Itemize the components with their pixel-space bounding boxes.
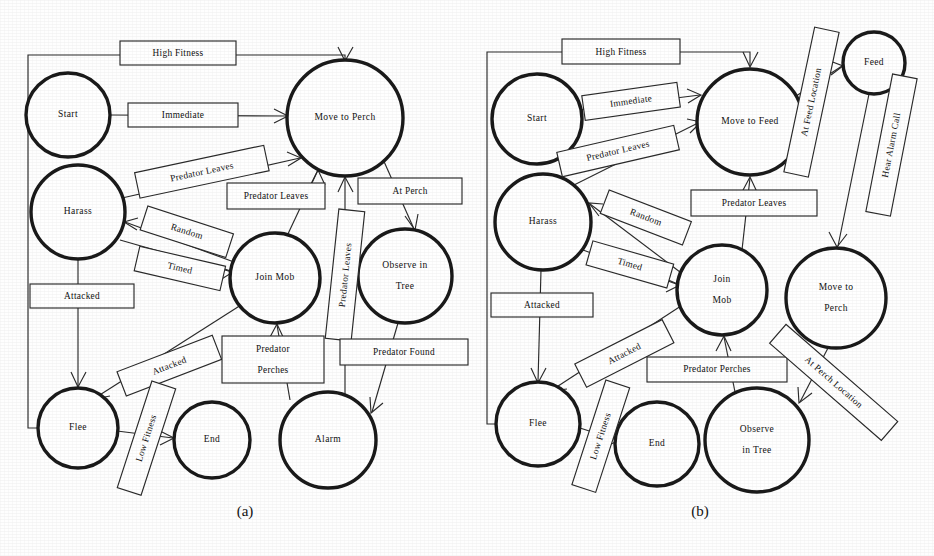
node-b-move-to-perch-label-line1: Move to xyxy=(819,282,854,292)
node-a-flee[interactable]: Flee xyxy=(38,388,118,468)
svg-text:Predator Perches: Predator Perches xyxy=(683,364,751,374)
svg-text:At Perch Location: At Perch Location xyxy=(803,354,865,410)
node-a-move-to-perch-label: Move to Perch xyxy=(314,112,375,122)
panel-a-caption: (a) xyxy=(237,503,254,520)
label-a-predator-perches[interactable]: Predator Perches xyxy=(222,336,324,383)
node-b-join-mob[interactable]: Join Mob xyxy=(677,245,767,335)
figure-canvas: Start Harass Move to Perch Join Mob Obse… xyxy=(0,0,934,556)
svg-text:Predator Found: Predator Found xyxy=(373,347,435,357)
label-a-low-fitness[interactable]: Low Fitness xyxy=(117,381,175,495)
svg-text:Attacked: Attacked xyxy=(64,291,100,301)
svg-text:At Perch: At Perch xyxy=(392,186,427,196)
svg-text:Predator Leaves: Predator Leaves xyxy=(722,198,787,208)
edge-b-attacked-1 xyxy=(538,270,541,382)
label-b-predator-leaves-2[interactable]: Predator Leaves xyxy=(691,190,817,216)
node-b-move-to-perch-label-line2: Perch xyxy=(824,303,848,313)
label-b-timed[interactable]: Timed xyxy=(586,241,674,288)
node-a-start-label: Start xyxy=(58,109,78,119)
node-b-join-mob-label-line2: Mob xyxy=(712,295,731,305)
node-a-move-to-perch[interactable]: Move to Perch xyxy=(287,60,403,176)
panel-b: Start Harass Move to Feed Feed Join xyxy=(487,27,917,520)
label-a-predator-perches-line1: Predator xyxy=(256,344,290,354)
label-a-immediate[interactable]: Immediate xyxy=(128,103,238,127)
label-a-predator-found[interactable]: Predator Found xyxy=(340,339,468,365)
node-a-harass[interactable]: Harass xyxy=(31,165,125,259)
panel-b-caption: (b) xyxy=(691,503,709,520)
label-b-immediate[interactable]: Immediate xyxy=(582,82,681,120)
label-b-high-fitness[interactable]: High Fitness xyxy=(562,39,680,64)
node-b-observe-in-tree-label-line1: Observe xyxy=(740,424,774,434)
label-a-attacked-1[interactable]: Attacked xyxy=(30,284,134,308)
node-b-feed-label: Feed xyxy=(864,57,884,67)
svg-text:High Fitness: High Fitness xyxy=(596,47,647,57)
panel-a: Start Harass Move to Perch Join Mob Obse… xyxy=(26,41,468,520)
node-b-end-label: End xyxy=(649,438,666,448)
label-a-high-fitness[interactable]: High Fitness xyxy=(120,41,236,65)
node-b-harass-label: Harass xyxy=(529,216,557,226)
node-a-alarm[interactable]: Alarm xyxy=(280,392,376,488)
label-b-attacked-1[interactable]: Attacked xyxy=(491,293,593,317)
node-a-harass-label: Harass xyxy=(64,206,92,216)
node-a-flee-label: Flee xyxy=(69,422,87,432)
node-b-end[interactable]: End xyxy=(615,402,699,486)
arrowhead-b-predator-perches xyxy=(716,336,731,351)
node-b-move-to-feed-label: Move to Feed xyxy=(721,116,779,126)
label-a-predator-leaves-2[interactable]: Predator Leaves xyxy=(227,183,325,209)
label-a-at-perch[interactable]: At Perch xyxy=(358,178,462,204)
edge-a-predator-found xyxy=(372,323,398,412)
edge-b-hear-alarm-call xyxy=(838,94,869,246)
node-a-join-mob[interactable]: Join Mob xyxy=(230,233,320,323)
label-b-predator-perches[interactable]: Predator Perches xyxy=(647,357,787,382)
node-b-move-to-perch[interactable]: Move to Perch xyxy=(786,248,886,348)
node-a-join-mob-label: Join Mob xyxy=(255,272,294,282)
node-b-flee-label: Flee xyxy=(529,418,547,428)
svg-text:Predator Leaves: Predator Leaves xyxy=(244,191,309,201)
panel-b-nodes: Start Harass Move to Feed Feed Join xyxy=(492,32,905,492)
node-b-observe-in-tree-label-line2: in Tree xyxy=(742,445,771,455)
node-a-start[interactable]: Start xyxy=(26,73,110,157)
node-b-harass[interactable]: Harass xyxy=(495,174,591,270)
svg-text:Immediate: Immediate xyxy=(162,110,204,120)
node-a-end[interactable]: End xyxy=(174,402,250,478)
node-a-observe-in-tree-label-line2: Tree xyxy=(396,281,415,291)
node-b-observe-in-tree[interactable]: Observe in Tree xyxy=(705,388,809,492)
node-b-start-label: Start xyxy=(527,113,547,123)
node-a-alarm-label: Alarm xyxy=(315,434,341,444)
label-b-random[interactable]: Random xyxy=(600,190,691,245)
node-b-join-mob-label-line1: Join xyxy=(713,274,730,284)
node-a-observe-in-tree[interactable]: Observe in Tree xyxy=(358,229,452,323)
svg-text:Attacked: Attacked xyxy=(524,300,560,310)
label-a-predator-perches-line2: Perches xyxy=(257,365,288,375)
svg-text:High Fitness: High Fitness xyxy=(153,48,204,58)
node-a-end-label: End xyxy=(204,434,221,444)
node-b-flee[interactable]: Flee xyxy=(496,382,580,466)
state-diagram-svg: Start Harass Move to Perch Join Mob Obse… xyxy=(0,0,934,556)
node-a-observe-in-tree-label-line1: Observe in xyxy=(382,260,427,270)
panel-a-nodes: Start Harass Move to Perch Join Mob Obse… xyxy=(26,60,452,488)
